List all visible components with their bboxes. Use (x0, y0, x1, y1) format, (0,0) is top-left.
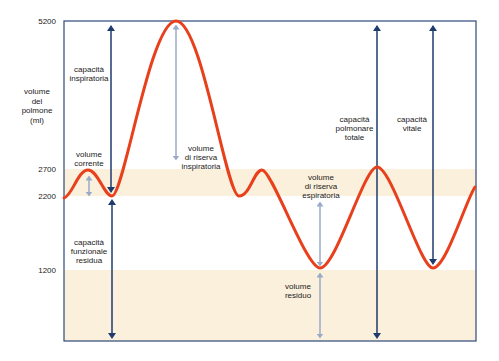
tick-5200: 5200 (16, 17, 56, 26)
label-capacita-funzionale-residua: capacità funzionale residua (67, 238, 111, 265)
label-volume-riserva-inspiratoria: volume di riserva inspiratoria (178, 144, 224, 171)
y-axis-label-line: del (16, 97, 58, 107)
label-line: volume (278, 282, 318, 291)
y-axis-label-line: polmone (16, 106, 58, 116)
label-line: inspiratoria (67, 74, 111, 83)
label-line: totale (332, 133, 377, 142)
label-volume-residuo: volume residuo (278, 282, 318, 300)
label-capacita-polmonare-totale: capacità polmonare totale (332, 115, 377, 142)
tick-1200: 1200 (16, 266, 56, 275)
tick-2700: 2700 (16, 165, 56, 174)
y-axis-label-line: (ml) (16, 116, 58, 126)
label-line: volume (68, 150, 110, 159)
label-line: capacità (67, 238, 111, 247)
label-line: residuo (278, 291, 318, 300)
label-line: capacità (332, 115, 377, 124)
spirogram-chart (0, 0, 499, 361)
label-line: residua (67, 256, 111, 265)
label-line: inspiratoria (178, 162, 224, 171)
label-line: polmonare (332, 124, 377, 133)
label-capacita-vitale: capacità vitale (392, 115, 432, 133)
volume-curve (64, 21, 475, 268)
tick-2200: 2200 (16, 192, 56, 201)
label-line: vitale (392, 124, 432, 133)
label-line: volume (296, 173, 346, 182)
label-line: funzionale (67, 247, 111, 256)
label-volume-corrente: volume corrente (68, 150, 110, 168)
label-capacita-inspiratoria: capacità inspiratoria (67, 65, 111, 83)
label-line: di riserva (178, 153, 224, 162)
label-line: corrente (68, 159, 110, 168)
label-line: espiratoria (296, 191, 346, 200)
label-line: di riserva (296, 182, 346, 191)
label-line: capacità (392, 115, 432, 124)
y-axis-label: volume del polmone (ml) (16, 87, 58, 125)
label-line: volume (178, 144, 224, 153)
y-axis-label-line: volume (16, 87, 58, 97)
label-volume-riserva-espiratoria: volume di riserva espiratoria (296, 173, 346, 200)
label-line: capacità (67, 65, 111, 74)
band-0-1200 (64, 270, 476, 341)
